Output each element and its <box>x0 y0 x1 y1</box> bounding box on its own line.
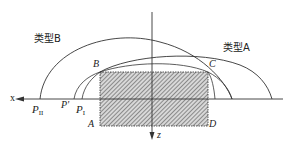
p-prime-label: P' <box>61 100 69 110</box>
x-axis-arrow-icon <box>15 97 24 102</box>
corner-a-label: A <box>88 119 94 129</box>
p1-label: PI <box>76 104 85 117</box>
type-a-label: 类型A <box>223 43 250 53</box>
corner-c-label: C <box>209 59 216 69</box>
arc-c-inner <box>208 72 215 99</box>
corner-d-label: D <box>209 119 216 129</box>
type-b-label: 类型B <box>34 34 61 44</box>
p2-label: PII <box>32 104 43 117</box>
z-axis-arrow-icon <box>150 132 155 140</box>
corner-b-label: B <box>93 59 99 69</box>
x-axis-label: x <box>10 93 15 103</box>
z-axis-label: z <box>157 130 161 140</box>
diagram-canvas <box>0 0 293 152</box>
arc-c-outer <box>208 72 232 99</box>
